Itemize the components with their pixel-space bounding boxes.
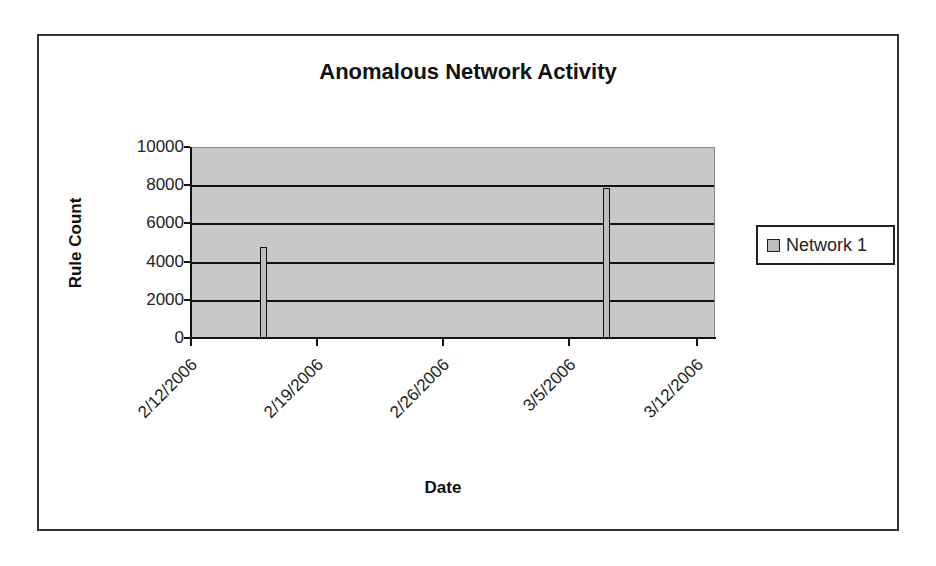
x-tick xyxy=(696,339,698,346)
x-axis xyxy=(190,337,716,339)
y-tick-label: 8000 xyxy=(146,175,184,195)
y-tick-label: 10000 xyxy=(137,137,184,157)
legend: Network 1 xyxy=(756,225,895,265)
x-tick xyxy=(442,339,444,346)
y-tick-label: 6000 xyxy=(146,213,184,233)
plot-area xyxy=(191,147,715,338)
bar xyxy=(603,188,610,338)
legend-label: Network 1 xyxy=(786,235,867,256)
x-tick xyxy=(190,339,192,346)
x-tick xyxy=(568,339,570,346)
y-tick xyxy=(184,299,190,301)
x-axis-label: Date xyxy=(425,478,462,498)
gridline xyxy=(191,223,714,225)
y-tick-label: 4000 xyxy=(146,252,184,272)
gridline xyxy=(191,300,714,302)
chart-title: Anomalous Network Activity xyxy=(0,59,936,85)
y-tick-label: 0 xyxy=(175,328,184,348)
gridline xyxy=(191,185,714,187)
y-tick xyxy=(184,261,190,263)
y-axis xyxy=(190,147,192,340)
y-axis-label: Rule Count xyxy=(66,198,86,289)
y-tick-label: 2000 xyxy=(146,290,184,310)
y-tick xyxy=(184,222,190,224)
bar xyxy=(260,247,267,338)
gridline xyxy=(191,262,714,264)
y-tick xyxy=(184,146,190,148)
y-tick xyxy=(184,184,190,186)
x-tick xyxy=(316,339,318,346)
legend-swatch-network-1 xyxy=(767,239,780,252)
